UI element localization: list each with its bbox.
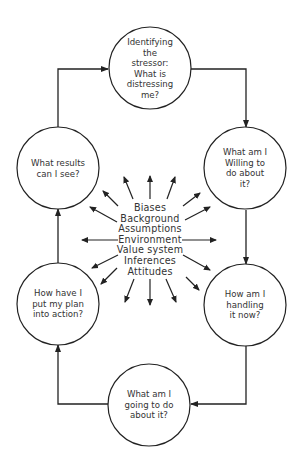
ray-up-right [167,177,175,199]
ray-right-shallow-down [183,255,210,270]
edge-results-to-identify [58,69,108,128]
edge-going-to-action [58,345,108,404]
ray-left-shallow-up [90,207,117,222]
ray-right-up [183,193,200,206]
factor-attitudes: Attitudes [117,266,183,277]
ray-left-up [103,191,118,206]
node-label-going: What am I going to do about it? [109,389,189,421]
ray-right-down [186,277,199,290]
ray-down-right [166,279,176,302]
ray-right-shallow-up [185,207,210,220]
node-label-handling: How am I handling it now? [205,289,285,321]
node-label-identify: Identifying the stressor: What is distre… [115,37,185,100]
ray-down-left [125,279,134,302]
edge-handling-to-going [191,346,246,404]
ray-left-down [101,268,117,284]
ray-up-left [124,177,133,199]
node-label-results: What results can I see? [18,158,98,179]
factor-biases: Biases [117,203,183,214]
node-label-willing: What am I Willing to do about it? [205,147,285,189]
node-label-action: How have I put my plan into action? [18,288,98,320]
edge-identify-to-willing [191,69,246,127]
factor-inferences: Inferences [117,256,183,267]
ray-left-shallow-down [92,255,118,268]
center-factors-list: Biases Background Assumptions Environmen… [117,203,183,277]
